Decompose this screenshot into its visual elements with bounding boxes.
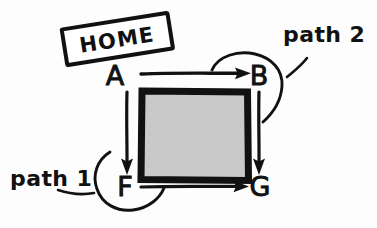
path2-leader-line	[287, 58, 307, 77]
node-label-f: F	[117, 171, 133, 202]
diagram-svg: A B F G HOME path 2 path 1	[0, 0, 377, 228]
node-label-a: A	[106, 60, 125, 91]
edge-a-to-b	[141, 67, 251, 79]
diagram-canvas: A B F G HOME path 2 path 1	[0, 0, 377, 228]
edge-b-to-g	[253, 92, 265, 175]
edge-f-to-g-line	[141, 186, 241, 187]
node-label-b: B	[250, 60, 269, 91]
path2-label: path 2	[283, 22, 365, 47]
edge-a-to-b-line	[141, 73, 243, 74]
path1-label: path 1	[10, 166, 92, 191]
center-shaded-region	[141, 91, 249, 181]
node-label-g: G	[250, 171, 271, 202]
center-region-fill	[141, 92, 249, 181]
edge-a-to-f	[121, 92, 133, 175]
